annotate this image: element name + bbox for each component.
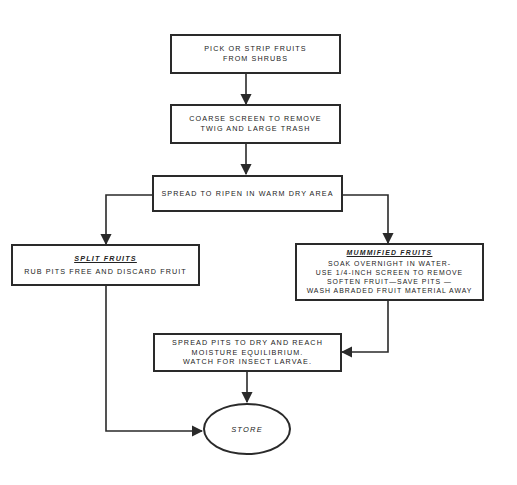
- node-text: SPREAD PITS TO DRY AND REACH: [172, 338, 323, 347]
- node-text: PICK OR STRIP FRUITS: [204, 44, 307, 54]
- node-text: FROM SHRUBS: [223, 54, 288, 64]
- node-text: SOAK OVERNIGHT IN WATER-: [328, 260, 451, 269]
- node-heading: SPLIT FRUITS: [74, 254, 137, 264]
- node-store: STORE: [203, 403, 291, 455]
- node-split-fruits: SPLIT FRUITS RUB PITS FREE AND DISCARD F…: [11, 244, 200, 286]
- node-text: RUB PITS FREE AND DISCARD FRUIT: [24, 267, 187, 277]
- arrow-spread-to-mummified: [342, 195, 388, 243]
- node-text: WATCH FOR INSECT LARVAE.: [183, 357, 312, 366]
- node-heading: MUMMIFIED FRUITS: [347, 249, 433, 258]
- node-pick-fruits: PICK OR STRIP FRUITS FROM SHRUBS: [170, 34, 341, 74]
- node-spread-pits-to-dry: SPREAD PITS TO DRY AND REACH MOISTURE EQ…: [153, 333, 342, 372]
- node-text: STORE: [231, 425, 263, 434]
- node-mummified-fruits: MUMMIFIED FRUITS SOAK OVERNIGHT IN WATER…: [295, 243, 484, 301]
- node-text: TWIG AND LARGE TRASH: [200, 124, 310, 134]
- node-coarse-screen: COARSE SCREEN TO REMOVE TWIG AND LARGE T…: [170, 104, 341, 144]
- node-text: COARSE SCREEN TO REMOVE: [189, 114, 321, 124]
- arrow-mummified-to-spread-dry: [342, 300, 388, 352]
- node-text: MOISTURE EQUILIBRIUM.: [192, 348, 304, 357]
- node-text: WASH ABRADED FRUIT MATERIAL AWAY: [307, 287, 473, 296]
- node-spread-to-ripen: SPREAD TO RIPEN IN WARM DRY AREA: [152, 175, 343, 212]
- node-text: USE 1/4-INCH SCREEN TO REMOVE: [316, 269, 463, 278]
- node-text: SOFTEN FRUIT—SAVE PITS —: [327, 278, 452, 287]
- arrow-spread-to-split: [106, 195, 152, 244]
- node-text: SPREAD TO RIPEN IN WARM DRY AREA: [161, 189, 333, 199]
